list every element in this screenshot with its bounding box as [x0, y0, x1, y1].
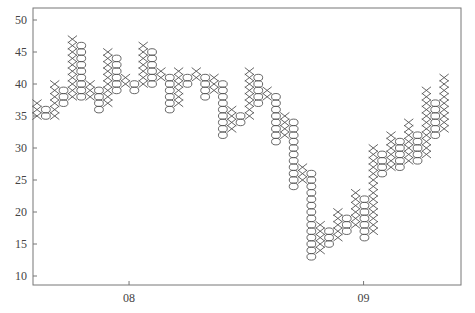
o-mark — [307, 170, 316, 177]
x-mark — [245, 74, 254, 81]
x-column — [263, 87, 272, 101]
o-column — [201, 74, 210, 100]
x-mark — [369, 144, 378, 151]
o-column — [360, 196, 369, 241]
x-mark — [333, 215, 342, 222]
o-mark — [395, 151, 404, 158]
x-column — [227, 106, 236, 132]
o-mark — [218, 113, 227, 120]
x-mark — [440, 87, 449, 94]
o-mark — [431, 106, 440, 113]
o-mark — [77, 87, 86, 94]
o-mark — [218, 132, 227, 139]
o-mark — [289, 151, 298, 158]
x-mark — [404, 119, 413, 126]
x-mark — [245, 80, 254, 87]
x-mark — [404, 151, 413, 158]
x-mark — [103, 100, 112, 107]
o-mark — [307, 190, 316, 197]
o-mark — [148, 49, 157, 56]
x-mark — [103, 87, 112, 94]
x-mark — [422, 144, 431, 151]
x-mark — [440, 100, 449, 107]
chart-canvas: 1015202530354045500809 — [0, 0, 475, 313]
o-mark — [218, 94, 227, 101]
x-mark — [369, 189, 378, 196]
o-mark — [218, 100, 227, 107]
x-column — [298, 164, 307, 184]
x-column — [280, 112, 289, 138]
o-mark — [272, 106, 281, 113]
o-column — [77, 42, 86, 100]
x-mark — [86, 87, 95, 94]
o-mark — [165, 100, 174, 107]
x-mark — [351, 208, 360, 215]
o-column — [325, 228, 334, 247]
axis-labels: 1015202530354045500809 — [15, 13, 370, 305]
x-mark — [156, 68, 165, 75]
x-mark — [351, 221, 360, 228]
x-mark — [245, 87, 254, 94]
o-mark — [360, 209, 369, 216]
o-mark — [289, 177, 298, 184]
o-mark — [183, 74, 192, 81]
o-column — [289, 119, 298, 190]
o-mark — [378, 164, 387, 171]
x-column — [86, 80, 95, 100]
o-mark — [431, 100, 440, 107]
y-tick-label: 10 — [15, 269, 27, 283]
o-column — [130, 81, 139, 94]
x-mark — [404, 157, 413, 164]
o-mark — [95, 87, 104, 94]
x-mark — [192, 68, 201, 75]
o-mark — [112, 81, 121, 88]
o-mark — [307, 253, 316, 260]
x-mark — [227, 125, 236, 132]
x-tick-label: 09 — [358, 291, 370, 305]
x-column — [121, 74, 130, 88]
o-mark — [395, 138, 404, 145]
o-mark — [307, 177, 316, 184]
o-column — [307, 170, 316, 260]
x-mark — [386, 144, 395, 151]
o-mark — [360, 196, 369, 203]
o-mark — [395, 145, 404, 152]
x-mark — [50, 106, 59, 113]
o-mark — [272, 100, 281, 107]
x-mark — [139, 61, 148, 68]
x-mark — [68, 93, 77, 100]
x-mark — [440, 106, 449, 113]
o-column — [431, 100, 440, 139]
o-column — [165, 74, 174, 113]
x-column — [139, 42, 148, 88]
x-mark — [369, 202, 378, 209]
o-column — [236, 113, 245, 126]
o-mark — [165, 106, 174, 113]
x-mark — [68, 48, 77, 55]
o-mark — [289, 164, 298, 171]
x-mark — [422, 112, 431, 119]
o-mark — [77, 68, 86, 75]
x-column — [422, 87, 431, 158]
x-mark — [369, 215, 378, 222]
o-mark — [77, 42, 86, 49]
y-tick-label: 40 — [15, 77, 27, 91]
o-mark — [165, 81, 174, 88]
o-mark — [360, 222, 369, 229]
o-mark — [59, 100, 68, 107]
x-mark — [139, 80, 148, 87]
x-mark — [316, 240, 325, 247]
x-mark — [316, 247, 325, 254]
o-mark — [77, 94, 86, 101]
x-mark — [316, 228, 325, 235]
o-mark — [165, 74, 174, 81]
x-mark — [351, 196, 360, 203]
o-column — [342, 215, 351, 234]
x-mark — [422, 87, 431, 94]
o-mark — [413, 132, 422, 139]
o-mark — [59, 87, 68, 94]
x-mark — [174, 87, 183, 94]
x-mark — [209, 87, 218, 94]
x-mark — [68, 80, 77, 87]
o-mark — [165, 87, 174, 94]
